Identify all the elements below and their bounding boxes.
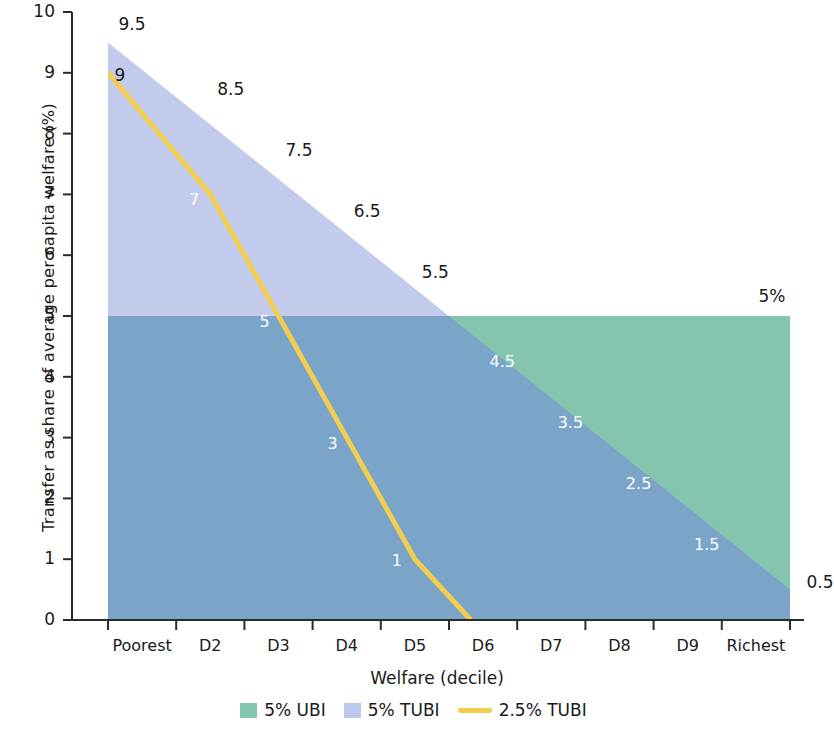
- x-tick-label-d9: D9: [676, 638, 699, 654]
- y-tick-label: 3: [9, 429, 55, 446]
- data-label-tubi-7.5: 7.5: [285, 142, 312, 159]
- legend-label: 5% TUBI: [368, 700, 440, 720]
- x-tick-label-d2: D2: [199, 638, 222, 654]
- data-label-ubi-5pct: 5%: [759, 288, 786, 305]
- x-tick-label-poorest: Poorest: [112, 638, 171, 654]
- data-label-tubi-8.5: 8.5: [217, 81, 244, 98]
- x-tick-label-d5: D5: [404, 638, 427, 654]
- legend-label: 5% UBI: [264, 700, 326, 720]
- y-tick-label: 10: [9, 3, 55, 20]
- x-tick-label-d3: D3: [267, 638, 290, 654]
- y-tick-label: 7: [9, 185, 55, 202]
- data-label-line-9: 9: [115, 66, 126, 83]
- x-tick-label-d7: D7: [540, 638, 563, 654]
- legend-item-2-5-tubi[interactable]: 2.5% TUBI: [458, 700, 587, 720]
- x-tick-label-d8: D8: [608, 638, 631, 654]
- x-tick-label-d6: D6: [472, 638, 495, 654]
- y-tick-label: 9: [9, 64, 55, 81]
- data-label-tubi-2.5: 2.5: [626, 476, 651, 492]
- y-tick-label: 0: [9, 611, 55, 628]
- legend-color-swatch: [240, 703, 257, 718]
- legend-item-5-tubi[interactable]: 5% TUBI: [344, 700, 440, 720]
- x-tick-label-richest: Richest: [726, 638, 785, 654]
- legend-label: 2.5% TUBI: [499, 700, 587, 720]
- data-label-tubi-6.5: 6.5: [354, 202, 381, 219]
- x-tick-label-d4: D4: [335, 638, 358, 654]
- y-tick-label: 1: [9, 550, 55, 567]
- legend-line-swatch: [458, 708, 492, 713]
- data-label-line-5: 5: [259, 314, 269, 330]
- data-label-tubi-1.5: 1.5: [694, 537, 719, 553]
- y-tick-label: 2: [9, 489, 55, 506]
- data-label-line-7: 7: [189, 192, 199, 208]
- data-label-line-3: 3: [328, 436, 338, 452]
- data-label-tubi-5.5: 5.5: [422, 263, 449, 280]
- data-label-tubi-4.5: 4.5: [489, 354, 514, 370]
- chart-legend: 5% UBI5% TUBI2.5% TUBI: [0, 700, 827, 720]
- data-label-tubi-9.5: 9.5: [118, 16, 145, 33]
- data-label-tubi-0.5: 0.5: [806, 573, 833, 590]
- y-tick-label: 4: [9, 368, 55, 385]
- data-label-line-1: 1: [392, 553, 402, 569]
- y-tick-label: 5: [9, 307, 55, 324]
- y-tick-label: 8: [9, 125, 55, 142]
- legend-item-5-ubi[interactable]: 5% UBI: [240, 700, 326, 720]
- y-tick-label: 6: [9, 246, 55, 263]
- data-label-tubi-3.5: 3.5: [558, 415, 583, 431]
- legend-color-swatch: [344, 703, 361, 718]
